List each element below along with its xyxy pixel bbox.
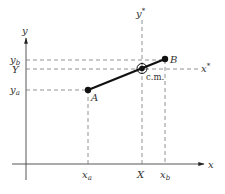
point-b xyxy=(162,56,168,62)
cm-diagram: A B c.m. y x x* y* yb Y ya xa X xb xyxy=(0,0,225,194)
tick-ya: ya xyxy=(9,84,20,97)
tick-xa: xa xyxy=(82,169,92,182)
label-cm: c.m. xyxy=(146,72,164,82)
x-star-label: x* xyxy=(201,62,211,74)
y-star-label: y* xyxy=(135,7,146,19)
y-axis-label: y xyxy=(21,25,28,36)
center-of-mass-point xyxy=(139,66,145,72)
label-b: B xyxy=(169,54,177,65)
tick-X: X xyxy=(136,169,145,180)
label-a: A xyxy=(90,92,98,103)
x-axis-label: x xyxy=(208,159,214,170)
tick-xb: xb xyxy=(160,169,171,182)
